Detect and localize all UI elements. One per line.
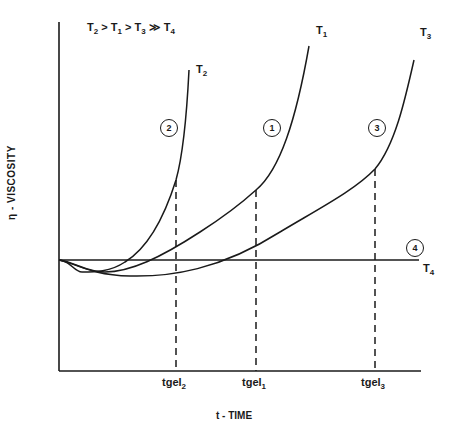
curve-4-temp-label: T4 <box>423 262 434 277</box>
tgel-3-label: tgel3 <box>361 376 385 391</box>
temperature-relation-title: T2 > T1 > T3 ≫ T4 <box>87 21 175 36</box>
curve-1-line <box>59 46 309 272</box>
curve-3-marker: 3 <box>368 119 386 137</box>
curve-2-temp-label: T2 <box>196 63 207 78</box>
tgel-1-label: tgel1 <box>242 376 266 391</box>
x-axis-label: t - TIME <box>216 410 252 421</box>
y-axis-label: η - VISCOSITY <box>6 145 17 220</box>
curve-1-temp-label: T1 <box>316 24 327 39</box>
curve-2-marker: 2 <box>160 119 178 137</box>
curve-3-line <box>59 60 414 276</box>
curve-3-temp-label: T3 <box>420 26 431 41</box>
tgel-2-label: tgel2 <box>162 376 186 391</box>
chart-canvas <box>0 0 459 440</box>
curve-2-line <box>59 70 189 272</box>
curve-1-marker: 1 <box>263 119 281 137</box>
curve-4-marker: 4 <box>406 239 424 257</box>
